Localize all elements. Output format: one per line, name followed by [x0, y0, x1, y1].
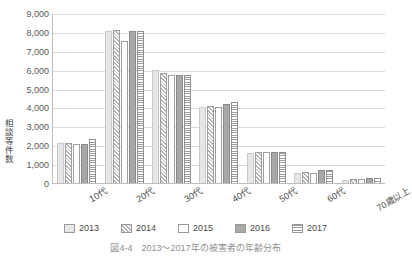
x-axis-tick: 20代: [135, 186, 156, 204]
y-axis-tick: 2,000: [26, 142, 49, 151]
x-axis-tick: 30代: [182, 186, 203, 204]
bar-50代-2014: [255, 152, 262, 183]
bar-70歳以上-2015: [358, 179, 365, 183]
bar-30代-2015: [168, 75, 175, 183]
legend-label: 2014: [136, 224, 156, 233]
x-axis-tick: 10代: [87, 186, 108, 204]
chart-plot-area-wrapper: 相談等件数 9,0008,0007,0006,0005,0004,0003,00…: [0, 2, 391, 198]
legend-swatch-icon: [121, 224, 132, 233]
bar-group: [290, 14, 337, 183]
legend-label: 2017: [307, 224, 327, 233]
legend-item-2017[interactable]: 2017: [292, 224, 327, 233]
bar-30代-2016: [176, 75, 183, 183]
legend-item-2013[interactable]: 2013: [64, 224, 99, 233]
bar-70歳以上-2017: [374, 178, 381, 183]
legend-swatch-icon: [178, 224, 189, 233]
bar-30代-2013: [152, 70, 159, 183]
bar-group: [53, 14, 100, 183]
bar-70歳以上-2013: [342, 180, 349, 183]
x-axis-tick: 70歳以上: [375, 186, 412, 213]
bar-50代-2015: [263, 152, 270, 183]
y-axis-tick: 8,000: [26, 28, 49, 37]
bar-30代-2014: [160, 73, 167, 184]
y-axis-tick: 9,000: [26, 10, 49, 19]
bar-40代-2017: [231, 102, 238, 183]
bar-40代-2014: [207, 106, 214, 183]
y-axis-tick: 6,000: [26, 66, 49, 75]
bar-60代-2016: [318, 170, 325, 183]
legend-item-2015[interactable]: 2015: [178, 224, 213, 233]
bar-group: [243, 14, 290, 183]
bar-70歳以上-2014: [350, 179, 357, 183]
y-axis-tick: 4,000: [26, 104, 49, 113]
legend-label: 2016: [250, 224, 270, 233]
bar-20代-2016: [129, 31, 136, 183]
y-axis-tick: 5,000: [26, 85, 49, 94]
bar-40代-2016: [223, 104, 230, 183]
y-axis-tick: 3,000: [26, 123, 49, 132]
bar-10代-2017: [89, 139, 96, 183]
bar-50代-2017: [279, 152, 286, 183]
legend-swatch-icon: [235, 224, 246, 233]
plot-canvas: [52, 14, 385, 184]
x-axis-tick: 50代: [278, 186, 299, 204]
bar-30代-2017: [184, 75, 191, 183]
chart-legend: 20132014201520162017: [0, 220, 391, 236]
bar-10代-2013: [57, 143, 64, 183]
bar-group: [100, 14, 147, 183]
bar-20代-2015: [121, 41, 128, 183]
legend-label: 2015: [193, 224, 213, 233]
legend-swatch-icon: [292, 224, 303, 233]
bar-40代-2013: [199, 107, 206, 184]
bar-group: [195, 14, 242, 183]
y-axis-tick-labels: 9,0008,0007,0006,0005,0004,0003,0002,000…: [13, 14, 51, 184]
y-axis-tick: 0: [44, 180, 49, 189]
bar-60代-2015: [310, 173, 317, 183]
legend-item-2016[interactable]: 2016: [235, 224, 270, 233]
bar-60代-2013: [294, 173, 301, 183]
y-axis-title: 相談等件数: [1, 98, 13, 184]
bar-10代-2015: [73, 144, 80, 183]
bar-60代-2014: [302, 172, 309, 183]
bar-group: [338, 14, 385, 183]
bar-groups: [53, 14, 385, 183]
legend-label: 2013: [79, 224, 99, 233]
x-axis-tick: 60代: [325, 186, 346, 204]
bar-50代-2013: [247, 153, 254, 183]
bar-20代-2017: [137, 31, 144, 183]
legend-item-2014[interactable]: 2014: [121, 224, 156, 233]
bar-70歳以上-2016: [366, 178, 373, 183]
bar-40代-2015: [215, 107, 222, 183]
bar-10代-2014: [65, 143, 72, 183]
legend-swatch-icon: [64, 224, 75, 233]
bar-60代-2017: [326, 170, 333, 183]
x-axis-tick-labels: 10代20代30代40代50代60代70歳以上: [52, 186, 385, 220]
y-axis-tick: 1,000: [26, 161, 49, 170]
y-axis-tick: 7,000: [26, 47, 49, 56]
bar-50代-2016: [271, 152, 278, 183]
figure-caption: 図4-4 2013～2017年の被害者の年齢分布: [0, 243, 391, 257]
bar-10代-2016: [81, 144, 88, 183]
bar-20代-2014: [113, 30, 120, 183]
bar-group: [148, 14, 195, 183]
bar-20代-2013: [105, 31, 112, 183]
x-axis-tick: 40代: [230, 186, 251, 204]
